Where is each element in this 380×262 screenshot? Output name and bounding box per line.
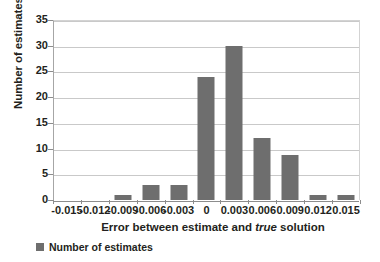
bar — [338, 195, 355, 200]
histogram-chart: Number of estimates 05101520253035 -0.01… — [0, 0, 380, 262]
bar — [142, 185, 159, 200]
bar — [310, 195, 327, 200]
bar-series-number-of-estimates — [53, 20, 360, 200]
x-tick-label-0.015: 0.015 — [323, 204, 369, 217]
bar — [198, 77, 215, 200]
legend-swatch-icon — [36, 243, 44, 251]
y-tick-label-30: 30 — [22, 40, 48, 51]
bar-slot — [193, 20, 221, 200]
bar — [170, 185, 187, 200]
bar-slot — [165, 20, 193, 200]
bar-slot — [81, 20, 109, 200]
x-axis-title-after: solution — [277, 221, 325, 233]
bar-slot — [248, 20, 276, 200]
bar-slot — [137, 20, 165, 200]
bar — [282, 155, 299, 200]
bar-slot — [276, 20, 304, 200]
bar-slot — [220, 20, 248, 200]
legend: Number of estimates — [36, 241, 153, 253]
bar — [254, 138, 271, 200]
y-tick-label-15: 15 — [22, 117, 48, 128]
y-tick-label-5: 5 — [22, 168, 48, 179]
bar-slot — [53, 20, 81, 200]
x-axis-title-italic: true — [255, 221, 277, 233]
y-tick-label-35: 35 — [22, 14, 48, 25]
bar-slot — [109, 20, 137, 200]
gridline-0 — [54, 201, 359, 202]
y-tick-label-20: 20 — [22, 91, 48, 102]
x-axis-title: Error between estimate and true solution — [53, 221, 373, 233]
bar — [226, 46, 243, 200]
bar — [114, 195, 131, 200]
legend-item-label: Number of estimates — [49, 241, 153, 253]
bar-slot — [304, 20, 332, 200]
y-tick-label-10: 10 — [22, 143, 48, 154]
y-tick-label-25: 25 — [22, 65, 48, 76]
bar-slot — [332, 20, 360, 200]
x-axis-title-before: Error between estimate and — [101, 221, 255, 233]
